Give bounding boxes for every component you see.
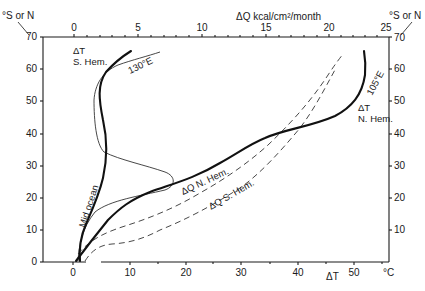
dq-n-hem-curve: [78, 54, 343, 254]
bottom-tick-label: 30: [235, 267, 247, 278]
right-tick-label: 40: [394, 128, 406, 139]
bottom-tick-label: 10: [124, 267, 136, 278]
right-tick-label: 60: [394, 63, 406, 74]
top-ticks: 0 5 10 15 20 25: [71, 22, 392, 37]
right-axis-title-pointer: [401, 22, 412, 35]
right-ticks: 10 20 30 40 50 60 70: [389, 32, 406, 235]
bottom-tick-label: 50: [348, 267, 360, 278]
left-tick-label: 60: [26, 63, 38, 74]
s-hem-sub-label: S. Hem.: [73, 56, 107, 67]
left-ticks: 0 10 20 30 40 50 60 70: [26, 31, 43, 267]
n-hem-sub-label: N. Hem.: [358, 113, 393, 124]
right-tick-label: 30: [394, 160, 406, 171]
top-tick-label: 20: [323, 22, 335, 33]
left-tick-label: 70: [26, 31, 38, 42]
right-tick-label: 10: [394, 224, 406, 235]
left-axis-title: °S or N: [2, 10, 34, 21]
n-hem-dt-label: ΔT: [358, 102, 370, 113]
chart: 0 10 20 30 40 50 60 70 10 20 30 40 50 60…: [0, 0, 425, 291]
top-axis-title: ΔQ kcal/cm²/month: [236, 11, 321, 22]
lon-105e-label: 105°E: [364, 69, 386, 97]
left-tick-label: 10: [26, 224, 38, 235]
left-tick-label: 20: [26, 192, 38, 203]
mid-ocean-label: Mid ocean: [76, 184, 100, 229]
top-tick-label: 15: [260, 22, 272, 33]
top-tick-label: 0: [71, 22, 77, 33]
bottom-tick-label: 0: [70, 267, 76, 278]
left-tick-label: 0: [31, 256, 37, 267]
right-tick-label: 20: [394, 192, 406, 203]
left-tick-label: 30: [26, 160, 38, 171]
bottom-tick-label: 20: [180, 267, 192, 278]
right-tick-label: 50: [394, 95, 406, 106]
axes-frame: [43, 37, 389, 262]
left-tick-label: 50: [26, 95, 38, 106]
top-tick-label: 25: [380, 22, 392, 33]
bottom-axis-title: ΔT: [326, 271, 339, 282]
bottom-axis-unit: °C: [383, 267, 394, 278]
s-hem-dt-label: ΔT: [73, 45, 85, 56]
left-axis-title-pointer: [18, 22, 29, 35]
dt-s-hem-130e-curve: [78, 52, 173, 261]
dq-s-hem-curve: [85, 68, 336, 261]
top-tick-label: 10: [196, 22, 208, 33]
dt-n-hem-105e-curve: [76, 51, 365, 261]
dt-mid-ocean-curve: [80, 51, 131, 261]
left-tick-label: 40: [26, 128, 38, 139]
bottom-tick-label: 40: [292, 267, 304, 278]
top-tick-label: 5: [135, 22, 141, 33]
right-tick-label: 70: [394, 32, 406, 43]
right-axis-title: °S or N: [389, 10, 421, 21]
